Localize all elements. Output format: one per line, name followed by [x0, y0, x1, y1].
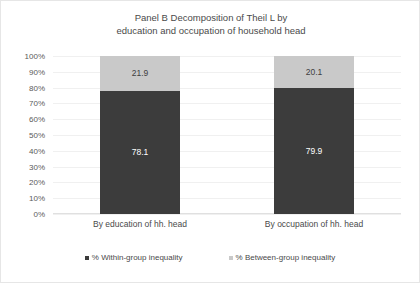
- legend-swatch-icon: [229, 256, 233, 260]
- stacked-bar: 20.179.9: [274, 56, 354, 214]
- bar-column[interactable]: 20.179.9: [274, 56, 354, 214]
- plot-area: 21.978.120.179.9: [53, 56, 401, 214]
- bar-column[interactable]: 21.978.1: [100, 56, 180, 214]
- legend-label: % Within-group inequality: [92, 253, 183, 262]
- y-axis-tick-label: 70%: [29, 99, 45, 108]
- y-axis-tick-label: 20%: [29, 178, 45, 187]
- chart-legend: % Within-group inequality% Between-group…: [1, 253, 419, 262]
- legend-swatch-icon: [85, 256, 89, 260]
- bar-value-label: 21.9: [132, 69, 149, 78]
- bar-segment[interactable]: 78.1: [100, 91, 180, 214]
- bar-segment[interactable]: 21.9: [100, 56, 180, 91]
- y-axis-tick-label: 50%: [29, 131, 45, 140]
- bar-segment[interactable]: 20.1: [274, 56, 354, 88]
- bar-value-label: 79.9: [306, 147, 323, 156]
- stacked-bar: 21.978.1: [100, 56, 180, 214]
- chart-title: Panel B Decomposition of Theil L by educ…: [61, 11, 361, 37]
- legend-item[interactable]: % Between-group inequality: [229, 253, 336, 262]
- legend-item[interactable]: % Within-group inequality: [85, 253, 183, 262]
- category-label: By occupation of hh. head: [265, 219, 363, 229]
- y-axis-tick-label: 60%: [29, 115, 45, 124]
- y-axis-tick-label: 10%: [29, 194, 45, 203]
- y-axis-tick-label: 30%: [29, 162, 45, 171]
- bar-value-label: 78.1: [132, 148, 149, 157]
- y-axis-tick-label: 90%: [29, 67, 45, 76]
- y-axis-tick-label: 100%: [25, 52, 45, 61]
- category-axis-labels: By education of hh. headBy occupation of…: [53, 219, 401, 235]
- bar-series-container: 21.978.120.179.9: [53, 56, 401, 214]
- bar-value-label: 20.1: [306, 68, 323, 77]
- y-axis-tick-label: 0%: [33, 210, 45, 219]
- gridline: [53, 214, 401, 215]
- legend-label: % Between-group inequality: [236, 253, 336, 262]
- chart-figure: Panel B Decomposition of Theil L by educ…: [0, 0, 420, 283]
- category-label: By education of hh. head: [93, 219, 187, 229]
- bar-segment[interactable]: 79.9: [274, 88, 354, 214]
- y-axis-tick-label: 40%: [29, 146, 45, 155]
- y-axis: 100%90%80%70%60%50%40%30%20%10%0%: [1, 56, 49, 214]
- y-axis-tick-label: 80%: [29, 83, 45, 92]
